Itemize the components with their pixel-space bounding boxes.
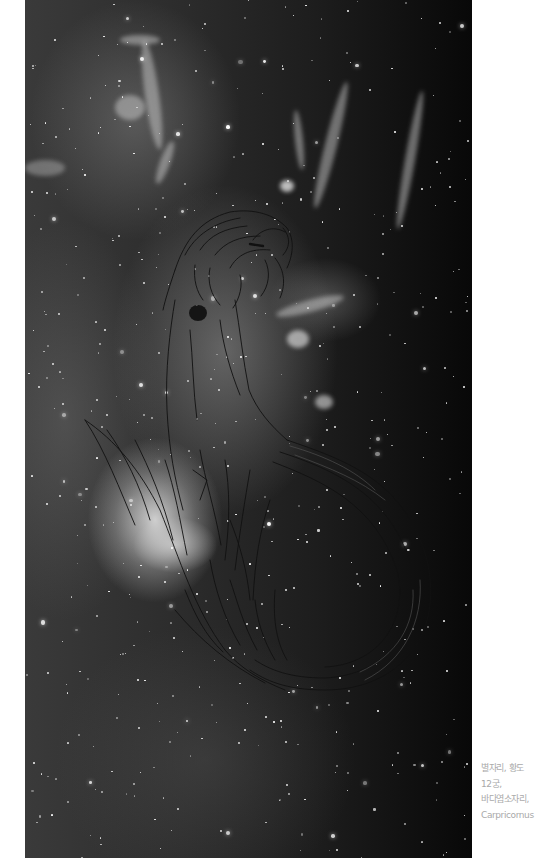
caption-line-2: 12궁, <box>481 777 537 793</box>
artwork-caption: 별자리, 황도 12궁, 바다염소자리, Carpricornus <box>481 761 537 823</box>
caption-line-1: 별자리, 황도 <box>481 761 537 777</box>
mermaid-line-drawing <box>25 0 472 858</box>
caption-line-4: Carpricornus <box>481 808 537 824</box>
caption-line-3: 바다염소자리, <box>481 792 537 808</box>
artwork-image <box>25 0 472 858</box>
